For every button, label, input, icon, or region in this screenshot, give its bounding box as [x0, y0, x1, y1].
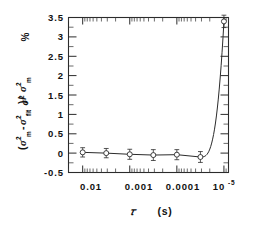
y-tick-label: 0.5 [48, 128, 64, 139]
data-series-layer [80, 15, 226, 162]
x-axis-title-units: (s) [157, 205, 172, 217]
y-axis-title-sub-m2: m [25, 77, 32, 83]
y-axis-unit-label: % [20, 32, 31, 41]
y-axis-major-ticks [69, 18, 77, 173]
svg-text:%: % [20, 32, 31, 41]
plot-frame [69, 18, 229, 173]
data-point-marker [174, 152, 179, 157]
data-line [83, 21, 224, 157]
y-tick-label: -0.5 [44, 167, 64, 178]
y-axis-title-exp2: 2 [15, 115, 22, 119]
data-point-marker [127, 152, 132, 157]
x-axis-ticks [69, 18, 229, 173]
y-axis-title-minus: - [16, 126, 28, 130]
y-tick-label: 1.5 [48, 90, 64, 101]
x-tick-label: 0.001 [125, 181, 153, 192]
residual-plot-svg: 3.5 3 2.5 2 1.5 1 0.5 0 -0.5 0.01 0.001 … [0, 0, 261, 227]
y-tick-label: 0 [58, 148, 64, 159]
y-tick-label: 3 [58, 31, 64, 42]
x-tick-label-exponent: -5 [228, 179, 236, 186]
y-axis-title-exp1: 2 [15, 136, 22, 140]
x-axis-title: 𝜏 (s) [130, 205, 173, 217]
y-tick-label: 2 [58, 70, 64, 81]
data-point-marker [104, 151, 109, 156]
y-tick-label: 1 [58, 109, 64, 120]
y-axis-title-sub-m1: m [25, 131, 32, 137]
y-axis-title-sub-fit: fit [25, 109, 32, 116]
data-point-marker [198, 155, 203, 160]
y-tick-label: 2.5 [48, 51, 64, 62]
y-axis-tick-labels: 3.5 3 2.5 2 1.5 1 0.5 0 -0.5 [44, 12, 64, 178]
x-tick-label: 0.01 [80, 181, 102, 192]
data-point-marker [221, 19, 226, 24]
x-tick-label: 0.0001 [166, 181, 200, 192]
y-axis-right-ticks [221, 18, 229, 173]
x-axis-tick-labels: 0.01 0.001 0.0001 10 -5 [80, 179, 236, 192]
x-tick-label: 10 [213, 181, 225, 192]
y-tick-label: 3.5 [48, 12, 64, 23]
y-axis-title-stack: ( σ 2 m - σ 2 fit )/ [15, 77, 32, 150]
data-point-marker [80, 150, 85, 155]
chart-figure: 3.5 3 2.5 2 1.5 1 0.5 0 -0.5 0.01 0.001 … [0, 0, 261, 227]
y-axis-title-exp3: 2 [15, 82, 22, 86]
x-axis-title-tau: 𝜏 [130, 206, 137, 217]
y-axis-title-close-div: )/ [16, 96, 28, 104]
data-point-marker [151, 153, 156, 158]
